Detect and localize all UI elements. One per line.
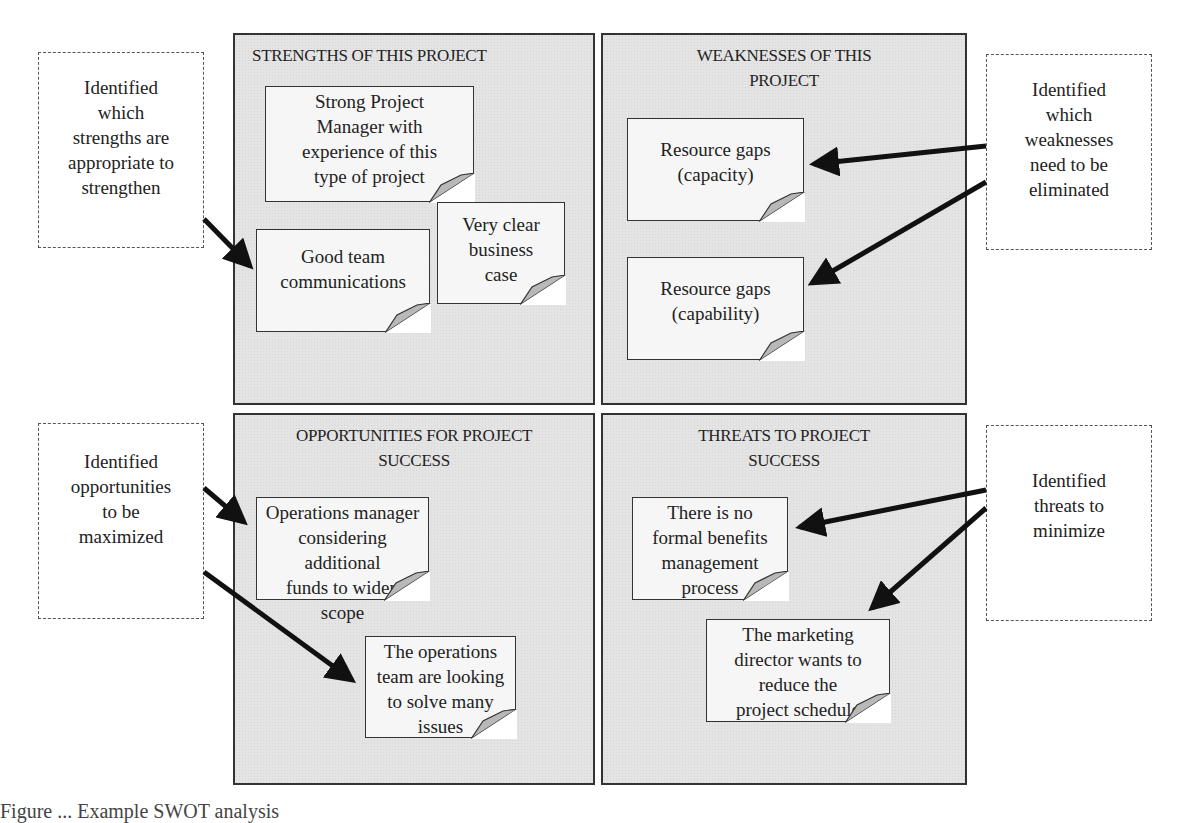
page-curl-icon xyxy=(471,709,517,739)
note-text: Resource gaps (capacity) xyxy=(660,137,770,187)
opportunities-title: OPPORTUNITIES FOR PROJECT SUCCESS xyxy=(235,423,593,473)
sticky-note-operations-team: The operations team are looking to solve… xyxy=(365,636,516,738)
sticky-note-benefits-management: There is no formal benefits management p… xyxy=(632,497,788,600)
sticky-note-reduce-schedule: The marketing director wants to reduce t… xyxy=(706,619,890,722)
threats-title: THREATS TO PROJECT SUCCESS xyxy=(603,423,965,473)
callout-strengths: Identified which strengths are appropria… xyxy=(38,52,204,248)
page-curl-icon xyxy=(759,331,805,361)
strengths-title: STRENGTHS OF THIS PROJECT xyxy=(252,43,593,68)
page-curl-icon xyxy=(385,303,431,333)
callout-threats: Identified threats to minimize xyxy=(986,425,1152,621)
callout-text: Identified which strengths are appropria… xyxy=(68,75,174,200)
sticky-note-additional-funds: Operations manager considering additiona… xyxy=(256,497,429,600)
callout-text: Identified opportunities to be maximized xyxy=(71,449,171,549)
callout-text: Identified which weaknesses need to be e… xyxy=(1025,77,1114,202)
callout-weaknesses: Identified which weaknesses need to be e… xyxy=(986,54,1152,250)
note-text: Resource gaps (capability) xyxy=(660,276,770,326)
note-text: Operations manager considering additiona… xyxy=(263,500,422,625)
callout-text: Identified threats to minimize xyxy=(1032,468,1106,543)
note-text: The marketing director wants to reduce t… xyxy=(734,622,862,722)
weaknesses-title: WEAKNESSES OF THIS PROJECT xyxy=(603,43,965,93)
sticky-note-team-comms: Good team communications xyxy=(256,229,430,332)
page-curl-icon xyxy=(759,192,805,222)
figure-caption: Figure ... Example SWOT analysis xyxy=(0,800,279,823)
page-curl-icon xyxy=(384,571,430,601)
page-curl-icon xyxy=(743,571,789,601)
page-curl-icon xyxy=(845,693,891,723)
callout-opportunities: Identified opportunities to be maximized xyxy=(38,423,204,619)
note-text: Good team communications xyxy=(280,244,406,294)
sticky-note-capability-gaps: Resource gaps (capability) xyxy=(627,257,804,360)
sticky-note-strong-pm: Strong Project Manager with experience o… xyxy=(265,86,474,202)
sticky-note-capacity-gaps: Resource gaps (capacity) xyxy=(627,118,804,221)
page-curl-icon xyxy=(429,173,475,203)
sticky-note-business-case: Very clear business case xyxy=(437,202,565,304)
note-text: Strong Project Manager with experience o… xyxy=(302,89,437,189)
page-curl-icon xyxy=(520,275,566,305)
